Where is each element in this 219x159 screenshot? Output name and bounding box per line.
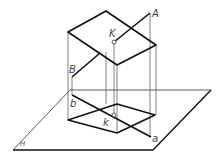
line-kb [72,53,100,77]
line-ab-projection [72,95,151,137]
diagram-canvas: A K B b k a H [0,0,219,159]
label-a-upper: A [151,8,159,19]
label-b-upper: B [69,64,76,75]
label-a-lower: a [152,133,158,144]
point-k-upper [112,40,116,44]
label-k-upper: K [109,28,117,39]
plane-h [13,90,211,150]
point-k-lower [112,113,116,117]
label-b-lower: b [70,98,76,109]
plane-right-edge [153,90,211,150]
label-plane-h: H [20,140,26,148]
label-k-lower: k [103,117,110,128]
prism-bottom-projection [68,104,155,133]
